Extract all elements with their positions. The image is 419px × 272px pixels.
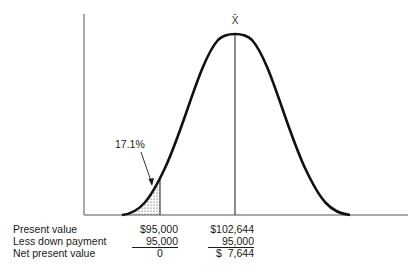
cell-col2: $102,644 [210,223,254,235]
shaded-tail-area [125,178,160,215]
row-label: Present value [13,223,77,235]
arrow-head-icon [149,178,155,186]
cell-col1: $95,000 [140,223,178,235]
normal-distribution-chart: X̄ 17.1% [0,0,419,220]
tail-percent-label: 17.1% [115,138,145,150]
row-label: Less down payment [13,235,106,247]
row-label: Net present value [13,247,95,259]
cell-col1: 95,000 [132,235,178,248]
bell-curve [122,34,350,215]
cell-col2: $ 7,644 [216,247,254,259]
npv-table: Present value $95,000 $102,644 Less down… [0,223,419,268]
mean-label: X̄ [232,14,239,26]
cell-col1: 0 [157,247,163,259]
